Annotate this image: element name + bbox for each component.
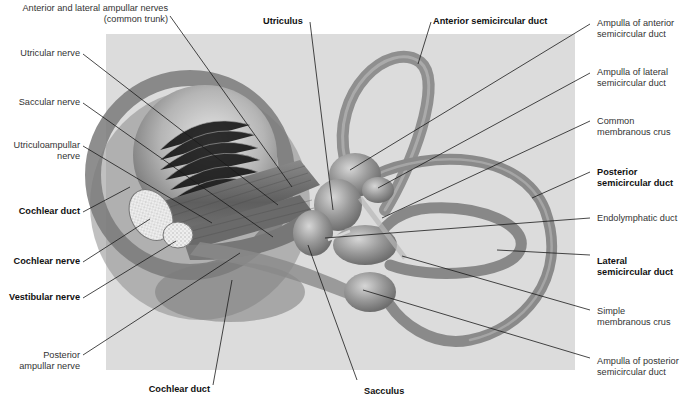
label-line: Ampulla of lateral xyxy=(597,67,668,78)
label-line: Anterior semicircular duct xyxy=(433,16,547,27)
label-lateral-semicircular-duct: Lateral semicircular duct xyxy=(597,256,673,278)
label-line: Posterior xyxy=(597,167,673,178)
label-line: (common trunk) xyxy=(22,14,168,25)
label-posterior-ampullar-nerve: Posterior ampullar nerve xyxy=(0,350,80,372)
label-endolymphatic-duct: Endolymphatic duct xyxy=(597,213,677,224)
label-line: semicircular duct xyxy=(597,29,674,40)
label-utricular-nerve: Utricular nerve xyxy=(0,48,80,59)
label-line: ampullar nerve xyxy=(0,361,80,372)
label-line: Cochlear nerve xyxy=(0,256,80,267)
label-line: Ampulla of posterior xyxy=(597,356,679,367)
label-line: Utricular nerve xyxy=(0,48,80,59)
label-vestibular-nerve: Vestibular nerve xyxy=(0,292,80,303)
label-line: Simple xyxy=(597,306,671,317)
label-line: semicircular duct xyxy=(597,178,673,189)
label-line: Utriculoampullar xyxy=(0,140,80,151)
label-line: Anterior and lateral ampullar nerves xyxy=(22,3,168,14)
label-cochlear-nerve: Cochlear nerve xyxy=(0,256,80,267)
label-simple-membranous-crus: Simple membranous crus xyxy=(597,306,671,328)
label-line: Lateral xyxy=(597,256,673,267)
label-line: Vestibular nerve xyxy=(0,292,80,303)
label-line: Ampulla of anterior xyxy=(597,18,674,29)
label-line: Common xyxy=(597,116,671,127)
label-line: nerve xyxy=(0,151,80,162)
label-sacculus: Sacculus xyxy=(364,386,404,397)
label-posterior-semicircular-duct: Posterior semicircular duct xyxy=(597,167,673,189)
label-utriculoampullar-nerve: Utriculoampullar nerve xyxy=(0,140,80,162)
inner-ear-diagram: Anterior and lateral ampullar nerves (co… xyxy=(0,0,688,401)
label-ampulla-lateral: Ampulla of lateral semicircular duct xyxy=(597,67,668,89)
label-common-membranous-crus: Common membranous crus xyxy=(597,116,671,138)
label-line: semicircular duct xyxy=(597,78,668,89)
label-ampulla-posterior: Ampulla of posterior semicircular duct xyxy=(597,356,679,378)
label-saccular-nerve: Saccular nerve xyxy=(0,97,80,108)
label-line: semicircular duct xyxy=(597,267,673,278)
label-line: membranous crus xyxy=(597,317,671,328)
label-line: Endolymphatic duct xyxy=(597,213,677,224)
label-line: membranous crus xyxy=(597,127,671,138)
label-line: Utriculus xyxy=(263,16,303,27)
label-anterior-lateral-ampullar-nerves: Anterior and lateral ampullar nerves (co… xyxy=(22,3,168,25)
label-line: Saccular nerve xyxy=(0,97,80,108)
label-ampulla-anterior: Ampulla of anterior semicircular duct xyxy=(597,18,674,40)
label-line: Cochlear duct xyxy=(120,384,210,395)
membranous-labyrinth-illustration xyxy=(0,0,688,401)
label-cochlear-duct-left: Cochlear duct xyxy=(0,206,80,217)
label-anterior-semicircular-duct: Anterior semicircular duct xyxy=(433,16,547,27)
label-line: semicircular duct xyxy=(597,367,679,378)
label-utriculus: Utriculus xyxy=(263,16,303,27)
label-cochlear-duct-bottom: Cochlear duct xyxy=(120,384,210,395)
label-line: Cochlear duct xyxy=(0,206,80,217)
label-line: Sacculus xyxy=(364,386,404,397)
label-line: Posterior xyxy=(0,350,80,361)
